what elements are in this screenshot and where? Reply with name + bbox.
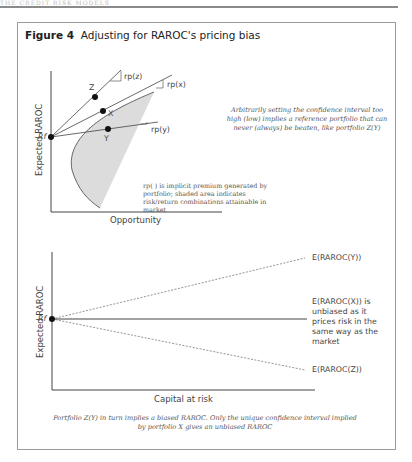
top-origin-label: Rf bbox=[38, 132, 46, 142]
point-label-y: Y bbox=[104, 134, 109, 144]
bottom-origin-label: Rf bbox=[38, 314, 46, 324]
bottom-x-axis-label: Capital at risk bbox=[154, 394, 213, 404]
point-rf-top bbox=[48, 134, 54, 140]
point-x bbox=[100, 108, 106, 114]
top-annotation: Arbitrarily setting the confidence inter… bbox=[226, 106, 388, 133]
label-raroc-z: E(RAROC(Z)) bbox=[312, 365, 362, 375]
point-label-x: X bbox=[108, 109, 113, 119]
line-raroc-z bbox=[52, 319, 305, 370]
line-label-rpy: rp(y) bbox=[151, 125, 170, 135]
line-label-rpx: rp(x) bbox=[167, 80, 186, 90]
legend-note: rp( ) is implicit premium generated by p… bbox=[143, 182, 283, 214]
slope-marker-y bbox=[140, 122, 147, 124]
point-rf-bottom bbox=[49, 316, 55, 322]
figure-caption: Portfolio Z(Y) in turn implies a biased … bbox=[50, 414, 360, 432]
line-label-rpz: rp(z) bbox=[124, 72, 142, 82]
label-raroc-x: E(RAROC(X)) is unbiased as it prices ris… bbox=[312, 297, 390, 347]
diagram-canvas bbox=[0, 0, 412, 462]
point-z bbox=[92, 94, 98, 100]
point-y bbox=[105, 126, 111, 132]
top-x-axis-label: Opportunity bbox=[110, 215, 161, 225]
line-raroc-y bbox=[52, 258, 305, 319]
point-label-z: Z bbox=[89, 83, 94, 93]
label-raroc-y: E(RAROC(Y)) bbox=[312, 253, 361, 263]
